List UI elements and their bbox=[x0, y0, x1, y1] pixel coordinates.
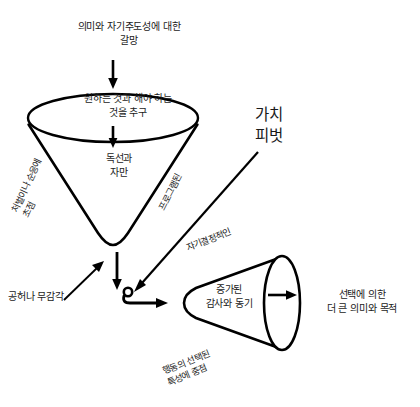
arrow-pivot-to-cone-head bbox=[156, 298, 168, 308]
value-pivot-diagram: 의미와 자기주도성에 대한 갈망 원하는 것과 해야 하는 것을 추구 독선과 … bbox=[0, 0, 420, 407]
label-craving-for-meaning: 의미와 자기주도성에 대한 갈망 bbox=[36, 20, 222, 47]
label-value-pivot: 가치 피벗 bbox=[255, 105, 333, 147]
label-pursuit-of-wants-and-shoulds: 원하는 것과 해야 하는 것을 추구 bbox=[52, 92, 204, 119]
pivot-point-circle bbox=[124, 288, 132, 296]
label-emptiness-or-numbness: 공허나 무감각 bbox=[8, 290, 108, 304]
label-greater-meaning-and-purpose-by-choice: 선택에 의한 더 큰 의미와 목적 bbox=[308, 288, 416, 315]
right-cone-mouth-ellipse bbox=[264, 256, 300, 350]
label-increased-gratitude-and-motivation: 증가된 감사와 동기 bbox=[190, 283, 268, 310]
arrow-craving-to-funnel bbox=[108, 60, 118, 89]
label-dogmatism-and-arrogance: 독선과 자만 bbox=[82, 152, 156, 179]
arrow-funnel-to-pivot bbox=[112, 252, 122, 290]
